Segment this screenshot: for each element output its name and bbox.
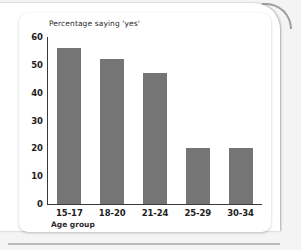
bar[interactable] — [229, 148, 253, 204]
y-axis-tick-label: 40 — [21, 88, 43, 98]
bar-slot — [176, 37, 219, 204]
bar[interactable] — [186, 148, 210, 204]
chart-card: Percentage saying 'yes' 0102030405060 15… — [19, 13, 271, 232]
bars-container — [48, 37, 262, 204]
y-axis-tick-label: 10 — [21, 171, 43, 181]
bar[interactable] — [57, 48, 81, 204]
y-axis-tick-label: 30 — [21, 116, 43, 126]
x-axis-tick-label: 21-24 — [134, 208, 177, 218]
bar-slot — [91, 37, 134, 204]
bar[interactable] — [100, 59, 124, 204]
x-axis-tick-label: 18-20 — [91, 208, 134, 218]
document-sheet: Percentage saying 'yes' 0102030405060 15… — [0, 0, 301, 250]
bar-slot — [134, 37, 177, 204]
y-axis-tick-label: 50 — [21, 60, 43, 70]
y-axis-tick-label: 0 — [21, 199, 43, 209]
x-axis-tick-label: 15-17 — [48, 208, 91, 218]
x-axis-title: Age group — [51, 220, 95, 229]
chart-title: Percentage saying 'yes' — [49, 19, 140, 28]
bar-slot — [219, 37, 262, 204]
y-axis-tick-labels: 0102030405060 — [19, 13, 43, 232]
y-axis-tick-label: 20 — [21, 143, 43, 153]
y-axis-tick-label: 60 — [21, 32, 43, 42]
bar-slot — [48, 37, 91, 204]
bottom-divider — [8, 243, 280, 245]
x-axis-tick-label: 30-34 — [219, 208, 262, 218]
x-axis-line — [47, 204, 262, 205]
x-axis-tick-label: 25-29 — [176, 208, 219, 218]
bar-chart: Percentage saying 'yes' 0102030405060 15… — [19, 13, 271, 232]
bar[interactable] — [143, 73, 167, 204]
